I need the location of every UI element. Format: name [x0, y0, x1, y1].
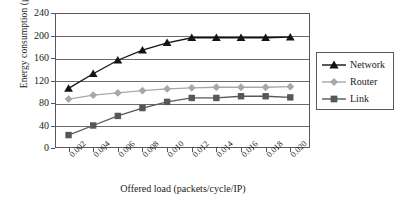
- series-line-router: [69, 87, 291, 99]
- legend-label: Network: [350, 58, 385, 72]
- legend-item-link[interactable]: Link: [321, 92, 393, 106]
- data-point: [188, 84, 196, 92]
- data-point: [64, 84, 73, 91]
- series-line-network: [69, 37, 291, 88]
- data-point: [163, 85, 171, 93]
- legend-item-network[interactable]: Network: [321, 58, 393, 72]
- legend-item-router[interactable]: Router: [321, 75, 393, 89]
- series-network: [64, 33, 295, 92]
- data-point: [262, 93, 268, 99]
- y-tick-mark-0: [51, 148, 55, 149]
- y-tick-label-120: 120: [9, 76, 49, 86]
- y-tick-label-0: 0: [9, 143, 49, 153]
- y-tick-label-40: 40: [9, 121, 49, 131]
- energy-consumption-line-chart: Energy consumption (μJ) 2402001601208040…: [0, 0, 401, 204]
- legend[interactable]: NetworkRouterLink: [316, 52, 394, 110]
- legend-label: Link: [350, 92, 369, 106]
- y-tick-label-80: 80: [9, 98, 49, 108]
- data-point: [212, 83, 220, 91]
- series-line-link: [69, 96, 291, 135]
- data-point: [90, 122, 96, 128]
- data-point: [113, 56, 122, 63]
- data-point: [287, 94, 293, 100]
- legend-marker-square-icon: [321, 92, 347, 106]
- y-tick-label-200: 200: [9, 31, 49, 41]
- data-point: [286, 83, 294, 91]
- data-point: [65, 132, 71, 138]
- data-point: [238, 93, 244, 99]
- data-point: [189, 95, 195, 101]
- y-tick-label-160: 160: [9, 53, 49, 63]
- data-point: [139, 87, 147, 95]
- y-tick-label-240: 240: [9, 8, 49, 18]
- data-point: [164, 99, 170, 105]
- data-point: [114, 89, 122, 97]
- data-point: [115, 113, 121, 119]
- data-point: [89, 91, 97, 99]
- data-point: [262, 83, 270, 91]
- data-point: [65, 95, 73, 103]
- legend-marker-triangle-icon: [321, 58, 347, 72]
- series-link: [65, 93, 293, 138]
- data-point: [237, 83, 245, 91]
- series-layer: [55, 13, 310, 148]
- x-axis-title: Offered load (packets/cycle/IP): [55, 183, 311, 194]
- legend-label: Router: [350, 75, 377, 89]
- data-point: [89, 70, 98, 77]
- legend-marker-diamond-icon: [321, 75, 347, 89]
- data-point: [213, 95, 219, 101]
- data-point: [139, 105, 145, 111]
